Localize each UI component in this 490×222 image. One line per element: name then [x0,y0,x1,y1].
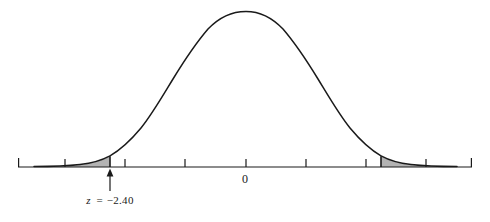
critical-value-arrow [107,169,114,192]
bell-curve [34,11,457,166]
arrow-head [107,169,114,177]
normal-distribution-figure: 0 z=−2.40 [0,0,490,222]
normal-curve-plot [0,0,490,222]
